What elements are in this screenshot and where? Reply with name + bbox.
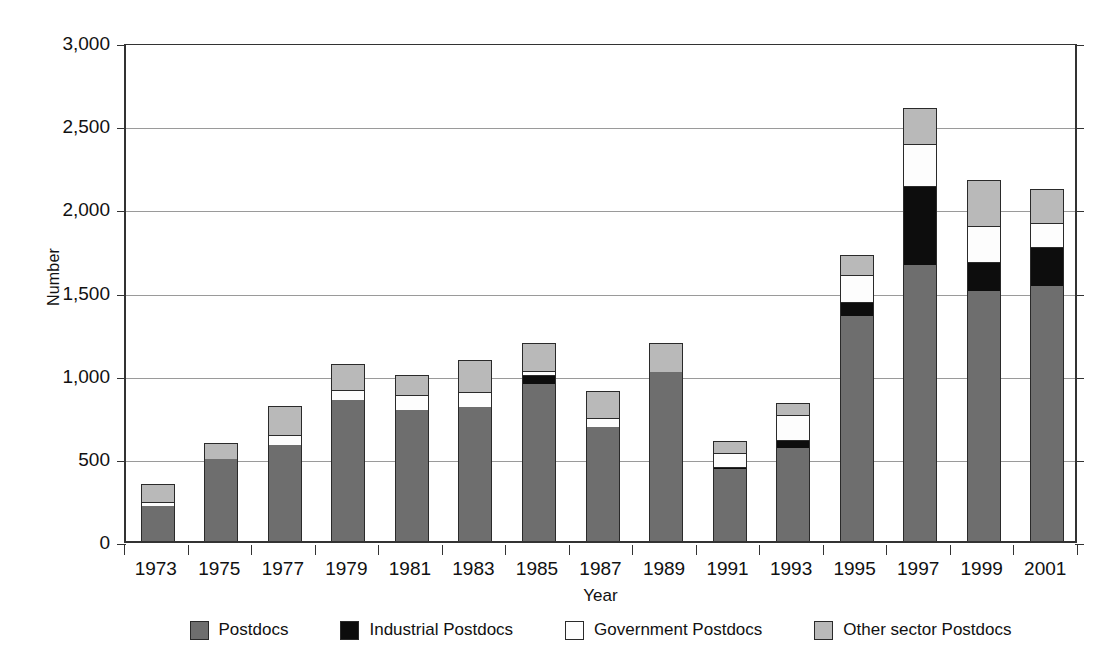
bar-segment-other-sector-postdocs[interactable] [840,255,874,275]
y-tick-label: 2,500 [20,117,110,136]
y-tick-label: 2,000 [20,200,110,219]
y-tickmark [1075,45,1084,46]
bar-1977[interactable] [268,406,302,541]
bar-segment-other-sector-postdocs[interactable] [1030,189,1064,222]
bar-segment-postdocs[interactable] [967,291,1001,541]
bar-1985[interactable] [522,343,556,541]
y-tickmark [1075,211,1084,212]
bar-segment-government-postdocs[interactable] [776,415,810,440]
bar-segment-other-sector-postdocs[interactable] [967,180,1001,226]
bar-segment-industrial-postdocs[interactable] [903,186,937,265]
bar-segment-other-sector-postdocs[interactable] [141,484,175,502]
bar-segment-postdocs[interactable] [204,459,238,541]
y-tick-label: 1,500 [20,284,110,303]
legend-label: Postdocs [219,620,289,640]
bar-segment-postdocs[interactable] [586,427,620,541]
x-tickmark [950,545,951,555]
bar-segment-government-postdocs[interactable] [903,144,937,186]
x-tickmark [1077,545,1078,555]
bar-1983[interactable] [458,360,492,541]
bar-segment-industrial-postdocs[interactable] [967,262,1001,290]
bar-1991[interactable] [713,441,747,541]
bar-segment-postdocs[interactable] [141,506,175,541]
bar-segment-government-postdocs[interactable] [458,392,492,407]
x-axis-tick-labels: 1973197519771979198119831985198719891991… [124,558,1077,586]
bar-segment-other-sector-postdocs[interactable] [268,406,302,435]
y-tick-label: 3,000 [20,34,110,53]
y-tickmark [117,45,126,46]
legend-label: Other sector Postdocs [843,620,1011,640]
bar-segment-other-sector-postdocs[interactable] [204,443,238,459]
plot-area [124,44,1077,543]
bar-segment-government-postdocs[interactable] [713,453,747,467]
bar-segment-postdocs[interactable] [776,448,810,541]
bar-segment-other-sector-postdocs[interactable] [713,441,747,453]
bar-2001[interactable] [1030,189,1064,541]
legend-item-government-postdocs[interactable]: Government Postdocs [565,620,762,640]
x-tickmark [505,545,506,555]
bar-1981[interactable] [395,375,429,541]
legend-item-industrial-postdocs[interactable]: Industrial Postdocs [340,620,513,640]
y-tickmark [1075,378,1084,379]
x-tick-label-2001: 2001 [1005,558,1085,580]
bar-segment-postdocs[interactable] [1030,286,1064,541]
bar-segment-industrial-postdocs[interactable] [522,375,556,384]
bar-segment-other-sector-postdocs[interactable] [776,403,810,415]
bar-1973[interactable] [141,484,175,541]
bar-1999[interactable] [967,180,1001,541]
bar-1997[interactable] [903,108,937,541]
bar-segment-other-sector-postdocs[interactable] [903,108,937,145]
y-tickmark [117,378,126,379]
y-tickmark [1075,295,1084,296]
x-tickmark [188,545,189,555]
bar-1993[interactable] [776,403,810,541]
bar-segment-other-sector-postdocs[interactable] [522,343,556,371]
bar-1975[interactable] [204,443,238,541]
x-tickmark [315,545,316,555]
x-tickmark [886,545,887,555]
bar-segment-industrial-postdocs[interactable] [776,440,810,447]
bar-segment-postdocs[interactable] [903,265,937,541]
x-tickmark [442,545,443,555]
x-axis-title: Year [124,586,1077,606]
x-tickmark [823,545,824,555]
legend-item-postdocs[interactable]: Postdocs [190,620,289,640]
bar-segment-other-sector-postdocs[interactable] [331,364,365,391]
bar-segment-postdocs[interactable] [713,469,747,541]
bar-segment-postdocs[interactable] [458,407,492,541]
bar-segment-other-sector-postdocs[interactable] [395,375,429,396]
y-tick-label: 0 [20,533,110,552]
bar-segment-postdocs[interactable] [649,372,683,541]
bar-segment-industrial-postdocs[interactable] [840,302,874,316]
bar-segment-other-sector-postdocs[interactable] [586,391,620,418]
bar-segment-government-postdocs[interactable] [586,418,620,427]
x-tickmark [569,545,570,555]
x-tickmark [124,545,125,555]
bar-1995[interactable] [840,255,874,541]
y-tickmark [117,128,126,129]
legend-item-other-sector-postdocs[interactable]: Other sector Postdocs [814,620,1011,640]
x-tickmark [632,545,633,555]
stacked-bar-chart: Number 3,0002,5002,0001,5001,0005000 197… [0,0,1102,664]
bar-1987[interactable] [586,391,620,541]
bar-segment-postdocs[interactable] [522,384,556,541]
swatch-black-icon [340,621,359,640]
bar-segment-postdocs[interactable] [331,400,365,541]
bar-segment-government-postdocs[interactable] [331,390,365,400]
bar-segment-government-postdocs[interactable] [395,395,429,409]
bar-segment-other-sector-postdocs[interactable] [458,360,492,392]
bar-segment-government-postdocs[interactable] [840,275,874,302]
bar-1989[interactable] [649,343,683,541]
y-tickmark [117,211,126,212]
swatch-white-icon [565,621,584,640]
bar-segment-government-postdocs[interactable] [967,226,1001,263]
y-tickmark [117,461,126,462]
bar-segment-government-postdocs[interactable] [1030,223,1064,248]
bar-segment-postdocs[interactable] [840,316,874,541]
bar-segment-government-postdocs[interactable] [268,435,302,444]
bar-segment-postdocs[interactable] [268,445,302,541]
bar-segment-other-sector-postdocs[interactable] [649,343,683,372]
bar-1979[interactable] [331,364,365,541]
bar-segment-postdocs[interactable] [395,410,429,541]
bar-segment-industrial-postdocs[interactable] [1030,247,1064,285]
